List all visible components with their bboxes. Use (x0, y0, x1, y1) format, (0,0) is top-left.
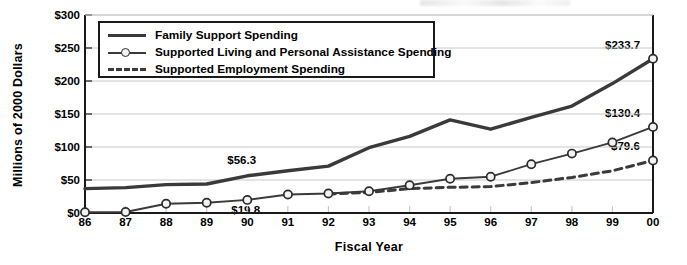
data-point-marker (81, 208, 89, 216)
series-line-0 (85, 59, 653, 189)
data-point-marker (284, 190, 292, 198)
data-point-marker (324, 189, 332, 197)
legend-item-supported-employment: Supported Employment Spending (106, 61, 427, 77)
data-point-marker (365, 187, 373, 195)
legend-label-supported-living: Supported Living and Personal Assistance… (155, 45, 452, 59)
data-point-marker (487, 173, 495, 181)
data-point-marker (649, 156, 657, 164)
data-point-marker (203, 199, 211, 207)
legend-item-supported-living: Supported Living and Personal Assistance… (106, 44, 427, 60)
legend-label-family-support: Family Support Spending (155, 28, 298, 42)
legend-item-family-support: Family Support Spending (106, 27, 427, 43)
data-point-marker (649, 123, 657, 131)
legend-key-dashed-icon (106, 62, 148, 76)
data-point-marker (446, 175, 454, 183)
data-point-marker (527, 160, 535, 168)
data-point-marker (649, 55, 657, 63)
series-line-1 (85, 127, 653, 212)
data-point-marker (122, 208, 130, 216)
data-point-marker (406, 181, 414, 189)
legend-label-supported-employment: Supported Employment Spending (155, 62, 345, 76)
chart-figure: Millions of 2000 Dollars Fiscal Year $0$… (0, 0, 687, 265)
data-point-marker (162, 200, 170, 208)
chart-legend: Family Support Spending Supported Living… (98, 21, 435, 78)
data-point-marker (243, 196, 251, 204)
data-point-marker (568, 150, 576, 158)
legend-key-marker-line-icon (106, 45, 148, 59)
legend-key-solid-thick-icon (106, 28, 148, 42)
data-point-marker (608, 138, 616, 146)
